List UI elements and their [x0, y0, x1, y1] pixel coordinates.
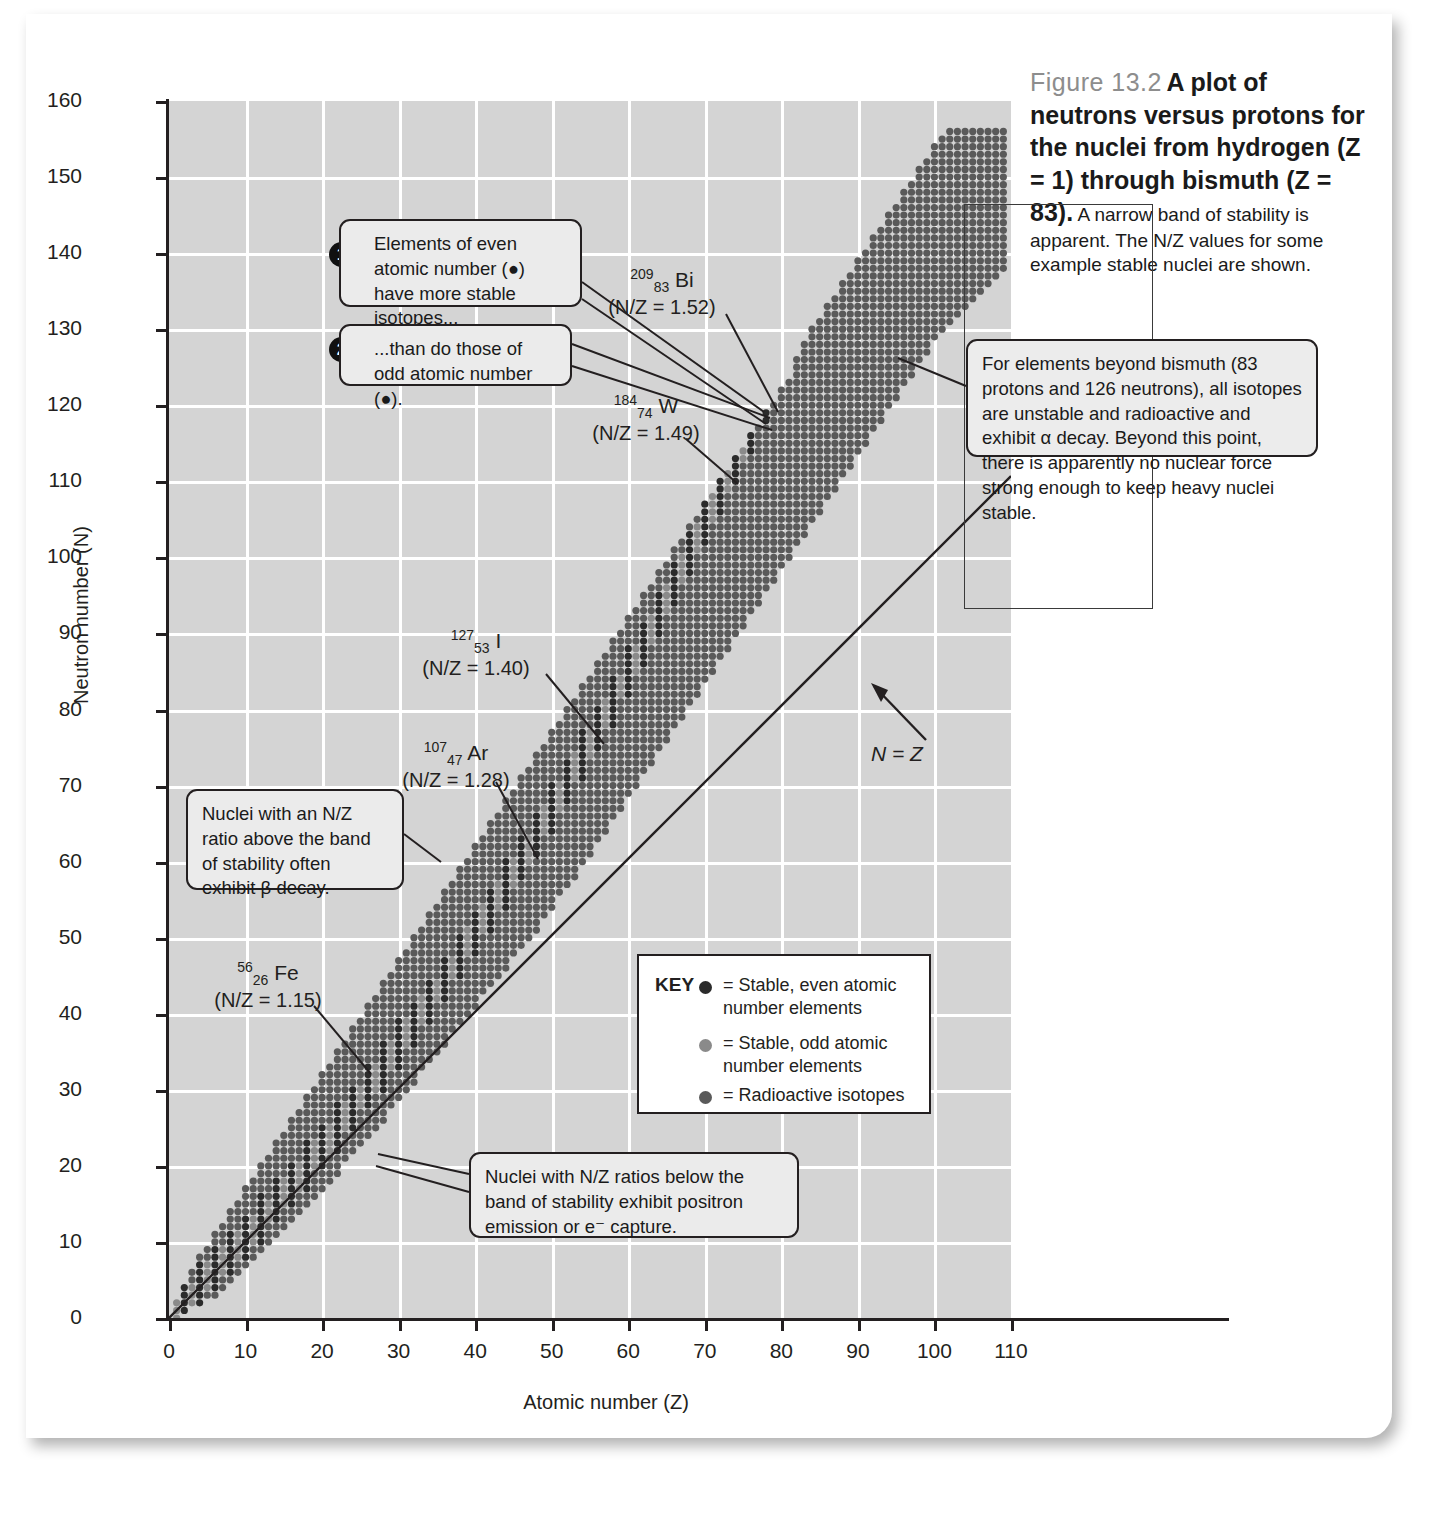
x-axis-tick-label: 40: [445, 1339, 505, 1363]
iso-symbol: Fe: [274, 961, 299, 984]
y-axis-tick: [156, 1318, 169, 1321]
iso-nz-ratio: (N/Z = 1.52): [608, 296, 715, 318]
y-axis-tick: [156, 1166, 169, 1169]
x-axis-tick-label: 30: [369, 1339, 429, 1363]
legend-key-box: KEY = Stable, even atomic number element…: [637, 954, 931, 1114]
y-axis-tick: [156, 1014, 169, 1017]
y-axis-tick: [156, 633, 169, 636]
iso-mass-number: 127: [451, 627, 474, 643]
legend-entry-label: = Stable, odd atomic number elements: [723, 1033, 888, 1076]
x-axis-line: [166, 1318, 1229, 1321]
iso-symbol: I: [495, 629, 501, 652]
iso-nz-ratio: (N/Z = 1.49): [592, 422, 699, 444]
isotope-label-ag: 10747 Ar (N/Z = 1.28): [376, 739, 536, 792]
x-axis-tick: [246, 1318, 249, 1331]
y-axis-tick-label: 30: [22, 1077, 82, 1101]
iso-atomic-number: 53: [474, 640, 490, 656]
y-axis-tick: [156, 710, 169, 713]
n-equals-z-label: N = Z: [871, 742, 923, 766]
y-axis-tick: [156, 786, 169, 789]
iso-symbol: Ar: [467, 741, 488, 764]
y-axis-tick-label: 150: [22, 164, 82, 188]
legend-entry-stable-odd: = Stable, odd atomic number elements: [723, 1032, 929, 1077]
x-axis-tick-label: 10: [216, 1339, 276, 1363]
x-axis-title: Atomic number (Z): [26, 1391, 1186, 1414]
iso-nz-ratio: (N/Z = 1.15): [214, 989, 321, 1011]
y-axis-tick-label: 120: [22, 392, 82, 416]
iso-symbol: Bi: [675, 268, 694, 291]
callout-odd-atomic-number: ...than do those of odd atomic number (●…: [339, 324, 572, 386]
x-axis-tick-label: 0: [139, 1339, 199, 1363]
x-axis-tick-label: 60: [598, 1339, 658, 1363]
callout-beyond-bismuth: For elements beyond bismuth (83 protons …: [966, 339, 1318, 457]
legend-entry-label: = Radioactive isotopes: [723, 1085, 905, 1105]
iso-nz-ratio: (N/Z = 1.28): [402, 769, 509, 791]
x-axis-tick-label: 90: [828, 1339, 888, 1363]
y-axis-tick: [156, 405, 169, 408]
isotope-label-bi: 20983 Bi (N/Z = 1.52): [582, 266, 742, 319]
y-axis-tick-label: 60: [22, 849, 82, 873]
y-axis-tick-label: 10: [22, 1229, 82, 1253]
iso-mass-number: 56: [237, 959, 253, 975]
figure-card: Figure 13.2 A plot of neutrons versus pr…: [26, 14, 1392, 1438]
x-axis-tick: [399, 1318, 402, 1331]
legend-entry-stable-even: = Stable, even atomic number elements: [723, 974, 929, 1019]
isotope-label-i: 12753 I (N/Z = 1.40): [396, 627, 556, 680]
iso-mass-number: 107: [424, 739, 447, 755]
y-axis-tick-label: 70: [22, 773, 82, 797]
x-axis-tick: [552, 1318, 555, 1331]
figure-number: Figure 13.2: [1030, 68, 1162, 96]
iso-atomic-number: 83: [654, 279, 670, 295]
iso-symbol: W: [658, 394, 678, 417]
legend-entry-radioactive: = Radioactive isotopes: [723, 1084, 905, 1107]
x-axis-tick-label: 80: [751, 1339, 811, 1363]
y-axis-title: Neutron number (N): [70, 526, 93, 704]
x-axis-tick-label: 20: [292, 1339, 352, 1363]
y-axis-tick-label: 50: [22, 925, 82, 949]
y-axis-tick-label: 160: [22, 88, 82, 112]
y-axis-tick-label: 0: [22, 1305, 82, 1329]
x-axis-tick: [169, 1318, 172, 1331]
x-axis-tick: [858, 1318, 861, 1331]
y-axis-tick: [156, 253, 169, 256]
y-axis-tick-label: 130: [22, 316, 82, 340]
legend-entry-label: = Stable, even atomic number elements: [723, 975, 897, 1018]
x-axis-tick: [628, 1318, 631, 1331]
legend-marker-radioactive: [699, 1091, 712, 1104]
y-axis-tick-label: 110: [22, 468, 82, 492]
x-axis-tick: [705, 1318, 708, 1331]
iso-mass-number: 209: [630, 266, 653, 282]
callout-below-band: Nuclei with N/Z ratios below the band of…: [469, 1152, 799, 1238]
y-axis-tick-label: 140: [22, 240, 82, 264]
iso-atomic-number: 26: [253, 972, 269, 988]
iso-nz-ratio: (N/Z = 1.40): [422, 657, 529, 679]
y-axis-tick: [156, 1090, 169, 1093]
callout-even-atomic-number: Elements of even atomic number (●) have …: [339, 219, 582, 307]
legend-marker-stable-odd: [699, 1039, 712, 1052]
legend-marker-stable-even: [699, 981, 712, 994]
x-axis-tick-label: 50: [522, 1339, 582, 1363]
y-axis-tick: [156, 329, 169, 332]
y-axis-tick: [156, 862, 169, 865]
y-axis-tick: [156, 101, 169, 104]
y-axis-tick: [156, 938, 169, 941]
y-axis-tick: [156, 481, 169, 484]
x-axis-tick: [322, 1318, 325, 1331]
x-axis-tick: [475, 1318, 478, 1331]
iso-mass-number: 184: [614, 392, 637, 408]
y-axis-tick-label: 40: [22, 1001, 82, 1025]
callout-above-band: Nuclei with an N/Z ratio above the band …: [186, 789, 404, 890]
isotope-label-fe: 5626 Fe (N/Z = 1.15): [188, 959, 348, 1012]
iso-atomic-number: 74: [637, 405, 653, 421]
x-axis-tick-label: 100: [904, 1339, 964, 1363]
isotope-label-w: 18474 W (N/Z = 1.49): [566, 392, 726, 445]
iso-atomic-number: 47: [447, 752, 463, 768]
legend-title: KEY: [655, 974, 694, 996]
y-axis-tick: [156, 1242, 169, 1245]
x-axis-tick-label: 70: [675, 1339, 735, 1363]
y-axis-tick: [156, 177, 169, 180]
x-axis-tick-label: 110: [981, 1339, 1041, 1363]
x-axis-tick: [934, 1318, 937, 1331]
x-axis-tick: [781, 1318, 784, 1331]
x-axis-tick: [1011, 1318, 1014, 1331]
